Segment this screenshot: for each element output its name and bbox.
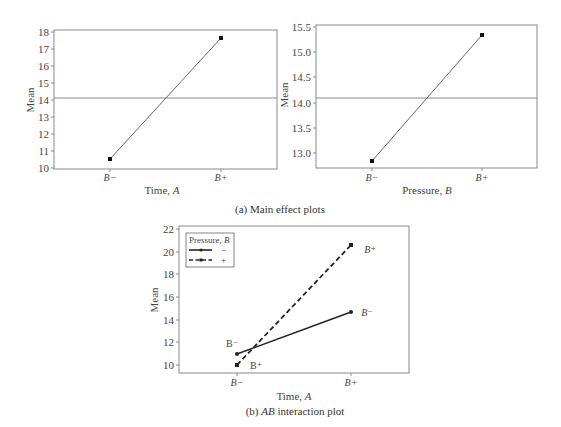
y-tick-label: 15.0 xyxy=(292,46,312,58)
series-line-b-plus xyxy=(237,245,351,365)
x-tick-label: B+ xyxy=(345,377,358,388)
y-tick-label: 18 xyxy=(163,268,175,280)
caption-b: (b) AB interaction plot xyxy=(180,405,410,417)
y-tick-label: 14 xyxy=(163,314,175,326)
x-tick-label: B− xyxy=(104,172,117,183)
main-effect-plot-pressure: 15.5 15.0 14.5 14.0 13.5 13.0 Mean B− B+… xyxy=(280,0,561,200)
data-point xyxy=(349,243,353,247)
legend-title: Pressure, B xyxy=(189,235,230,245)
data-point xyxy=(349,310,353,314)
x-tick-label: B− xyxy=(231,377,244,388)
data-point xyxy=(235,363,239,367)
y-tick-label: 12 xyxy=(163,336,174,348)
y-tick-label: 12 xyxy=(38,128,49,140)
main-effect-plot-time: 18 17 16 15 14 13 12 11 10 Mean B− B+ Ti… xyxy=(0,0,280,200)
data-point xyxy=(480,33,484,37)
y-tick-label: 13 xyxy=(38,111,50,123)
y-tick-label: 16 xyxy=(38,60,50,72)
data-point xyxy=(370,159,374,163)
point-label: B⁻ xyxy=(226,338,238,349)
y-tick-label: 14 xyxy=(38,94,50,106)
y-tick-label: 13.0 xyxy=(292,147,312,159)
y-axis-label: Mean xyxy=(24,87,36,113)
y-tick-label: 10 xyxy=(163,359,175,371)
y-tick-label: 11 xyxy=(38,145,49,157)
x-tick-label: B+ xyxy=(215,172,228,183)
x-axis-label: Time, A xyxy=(144,184,179,196)
y-axis-label: Mean xyxy=(280,82,290,108)
y-tick-label: 22 xyxy=(163,223,174,235)
x-axis-label: Time, A xyxy=(276,390,311,402)
y-tick-label: 18 xyxy=(38,26,50,38)
x-tick-label: B+ xyxy=(476,172,489,183)
point-label: B⁺ xyxy=(364,244,375,255)
data-point xyxy=(219,36,223,40)
y-axis: 18 17 16 15 14 13 12 11 10 xyxy=(38,26,54,174)
y-axis-label: Mean xyxy=(150,287,160,313)
legend-item-plus: + xyxy=(221,255,226,265)
y-tick-label: 15.5 xyxy=(292,21,312,33)
point-label: B⁻ xyxy=(361,307,372,318)
y-axis: 22 20 18 16 14 12 10 xyxy=(163,223,179,371)
x-tick-label: B− xyxy=(366,172,379,183)
plot-frame xyxy=(316,25,537,168)
y-tick-label: 16 xyxy=(163,291,175,303)
data-point xyxy=(235,352,239,356)
data-point xyxy=(108,157,112,161)
y-tick-label: 13.5 xyxy=(292,122,312,134)
y-tick-label: 14.5 xyxy=(292,71,312,83)
y-tick-label: 20 xyxy=(163,246,175,258)
legend-item-minus: − xyxy=(221,245,226,255)
y-tick-label: 17 xyxy=(38,43,50,55)
x-axis-label: Pressure, B xyxy=(402,184,452,196)
plot-frame xyxy=(54,30,277,169)
legend: Pressure, B − + xyxy=(186,233,234,267)
y-axis: 15.5 15.0 14.5 14.0 13.5 13.0 xyxy=(292,21,316,159)
y-tick-label: 10 xyxy=(38,162,50,174)
interaction-plot: 22 20 18 16 14 12 10 Mean Pressure, B − … xyxy=(150,210,420,427)
y-tick-label: 14.0 xyxy=(292,97,312,109)
y-tick-label: 15 xyxy=(38,77,50,89)
point-label: B⁺ xyxy=(250,360,262,371)
